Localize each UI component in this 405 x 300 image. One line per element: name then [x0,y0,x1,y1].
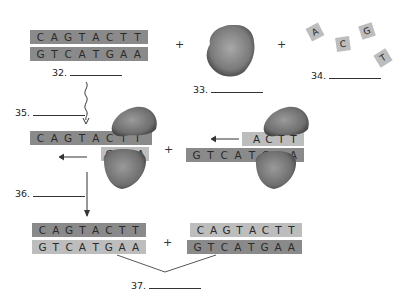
question-37: 37. [131,280,201,291]
question-37-number: 37. [131,280,146,291]
pointer-lines [0,0,405,300]
answer-blank-37[interactable] [149,280,201,289]
